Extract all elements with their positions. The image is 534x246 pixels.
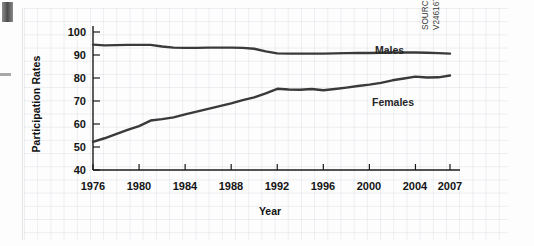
source-line-1: SOURCE: Statistics Canada, CANSIM Series xyxy=(421,0,430,30)
y-tick-label: 40 xyxy=(52,165,86,176)
x-tick-label: 1988 xyxy=(211,181,251,192)
x-tick-label: 1976 xyxy=(73,181,113,192)
y-tick-label: 60 xyxy=(52,119,86,130)
y-tick-label: 100 xyxy=(52,27,86,38)
y-tick-label: 90 xyxy=(52,50,86,61)
source-line-2: V2461670 and V2461460. xyxy=(431,0,442,30)
x-tick-label: 1996 xyxy=(303,181,343,192)
x-axis-title: Year xyxy=(210,205,330,217)
participation-rates-line-chart: 100 90 80 70 60 50 40 1976 1980 1984 198… xyxy=(0,0,534,246)
y-tick-label: 70 xyxy=(52,96,86,107)
x-tick-label: 1980 xyxy=(119,181,159,192)
x-tick-label: 2007 xyxy=(430,181,470,192)
y-axis-title: Participation Rates xyxy=(30,44,42,164)
x-tick-label: 1984 xyxy=(165,181,205,192)
x-tick-label: 1992 xyxy=(257,181,297,192)
x-tick-label: 2000 xyxy=(349,181,389,192)
source-note: SOURCE: Statistics Canada, CANSIM Series… xyxy=(420,0,442,30)
series-label-males: Males xyxy=(375,44,404,56)
series-label-females: Females xyxy=(372,96,414,108)
y-tick-label: 50 xyxy=(52,142,86,153)
y-tick-label: 80 xyxy=(52,73,86,84)
x-tick-label: 2004 xyxy=(395,181,435,192)
chart-series xyxy=(93,45,450,142)
